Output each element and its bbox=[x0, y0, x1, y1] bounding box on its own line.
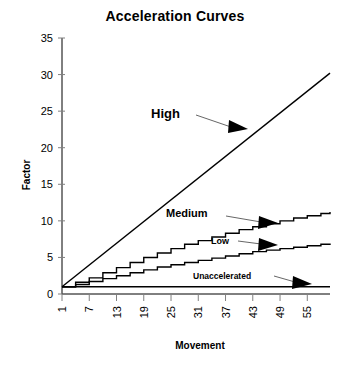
y-axis-title: Factor bbox=[21, 160, 32, 191]
y-tick-label: 30 bbox=[41, 69, 53, 81]
leader-line-unaccelerated bbox=[274, 276, 295, 282]
chart-plot-area: 05101520253035 171319253137434955 Factor… bbox=[0, 0, 350, 366]
series-label-low: Low bbox=[211, 236, 230, 246]
series-label-unaccelerated: Unaccelerated bbox=[193, 271, 251, 281]
y-tick-label: 35 bbox=[41, 32, 53, 44]
series-layer bbox=[62, 73, 330, 287]
y-tick-label: 20 bbox=[41, 142, 53, 154]
x-tick-label: 43 bbox=[247, 306, 259, 318]
x-tick-label: 31 bbox=[192, 306, 204, 318]
series-line-high bbox=[62, 73, 330, 287]
chart-container: Acceleration Curves 05101520253035 17131… bbox=[0, 0, 350, 366]
leader-line-high bbox=[196, 115, 231, 127]
leader-line-low bbox=[238, 241, 261, 244]
arrow-head-low bbox=[258, 238, 278, 251]
y-tick-label: 0 bbox=[47, 288, 53, 300]
x-tick-label: 7 bbox=[83, 306, 95, 312]
arrow-head-high bbox=[228, 120, 248, 133]
x-tick-label: 25 bbox=[165, 306, 177, 318]
x-tick-label: 55 bbox=[301, 306, 313, 318]
y-tick-label: 15 bbox=[41, 178, 53, 190]
leader-line-medium bbox=[226, 216, 261, 222]
series-label-medium: Medium bbox=[166, 207, 208, 219]
x-tick-label: 49 bbox=[274, 306, 286, 318]
y-tick-label: 25 bbox=[41, 105, 53, 117]
x-tick-label: 37 bbox=[220, 306, 232, 318]
x-tick-label: 19 bbox=[138, 306, 150, 318]
y-tick-label: 10 bbox=[41, 215, 53, 227]
x-tick-label: 13 bbox=[111, 306, 123, 318]
series-label-high: High bbox=[151, 106, 180, 121]
y-axis-ticks: 05101520253035 bbox=[41, 32, 65, 300]
x-tick-label: 1 bbox=[56, 306, 68, 312]
x-axis-title: Movement bbox=[175, 340, 225, 351]
arrow-head-medium bbox=[258, 216, 278, 229]
x-axis-ticks: 171319253137434955 bbox=[56, 294, 313, 318]
y-tick-label: 5 bbox=[47, 251, 53, 263]
